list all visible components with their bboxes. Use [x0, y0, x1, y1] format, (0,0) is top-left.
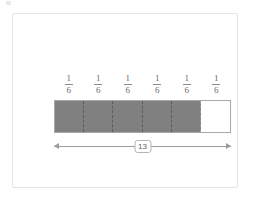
fraction-1-6: 1 6 [124, 74, 132, 95]
bar-segment-1 [55, 101, 84, 132]
fraction-numerator: 1 [155, 74, 160, 84]
arrow-left-icon [54, 143, 59, 149]
fraction-label-1: 1 6 [54, 72, 84, 97]
fraction-1-6: 1 6 [153, 74, 161, 95]
fraction-numerator: 1 [96, 74, 101, 84]
bar-segment-2 [84, 101, 113, 132]
bar-segment-3 [113, 101, 142, 132]
fraction-numerator: 1 [185, 74, 190, 84]
fraction-label-row: 1 6 1 6 1 6 [54, 72, 231, 97]
fraction-1-6: 1 6 [183, 74, 191, 95]
figure-canvas: 1 6 1 6 1 6 [0, 0, 262, 204]
corner-artifact [6, 1, 11, 5]
measurement-value-badge: 13 [134, 140, 151, 153]
fraction-label-2: 1 6 [84, 72, 114, 97]
fraction-denominator: 6 [67, 85, 72, 95]
fraction-denominator: 6 [155, 85, 160, 95]
bar-segment-4 [143, 101, 172, 132]
bar-segment-5 [172, 101, 201, 132]
fraction-denominator: 6 [96, 85, 101, 95]
fraction-1-6: 1 6 [65, 74, 73, 95]
fraction-label-6: 1 6 [202, 72, 232, 97]
fraction-denominator: 6 [126, 85, 131, 95]
figure-frame: 1 6 1 6 1 6 [12, 13, 238, 188]
fraction-1-6: 1 6 [94, 74, 102, 95]
fraction-label-5: 1 6 [172, 72, 202, 97]
fraction-numerator: 1 [67, 74, 72, 84]
arrow-right-icon [226, 143, 231, 149]
fraction-numerator: 1 [214, 74, 219, 84]
fraction-denominator: 6 [214, 85, 219, 95]
bar-segment-6 [201, 101, 230, 132]
fraction-label-3: 1 6 [113, 72, 143, 97]
fraction-1-6: 1 6 [212, 74, 220, 95]
fraction-denominator: 6 [185, 85, 190, 95]
measurement-arrow: 13 [54, 140, 231, 154]
fraction-label-4: 1 6 [143, 72, 173, 97]
fraction-bar [54, 100, 231, 133]
fraction-numerator: 1 [126, 74, 131, 84]
